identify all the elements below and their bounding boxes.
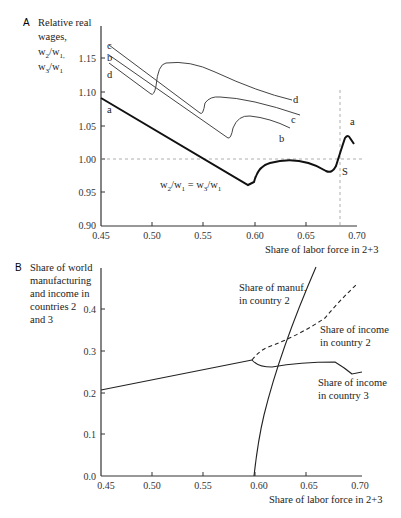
panel-a-ytick-1.15: 1.15 xyxy=(79,53,97,64)
label-d-left: d xyxy=(107,69,113,80)
panel-a-ytick-1.05: 1.05 xyxy=(79,121,97,132)
panel-b-ytick-0.4: 0.4 xyxy=(84,304,97,315)
label-c-right: c xyxy=(291,114,296,125)
curve-income-country-3 xyxy=(252,360,362,374)
panel-b-ylabel-line4: countries 2 xyxy=(30,301,76,312)
panel-a-ylabel-line3: w2/w1, xyxy=(38,46,65,60)
panel-a: A Relative real wages, w2/w1, w3/w1 1.15… xyxy=(23,17,379,255)
equation-label: w2/w1 = w3/w1 xyxy=(160,179,222,193)
annotation-manuf-line1: Share of manuf. xyxy=(239,282,306,293)
label-d-right: d xyxy=(293,94,299,105)
panel-a-ylabel-line1: Relative real xyxy=(38,17,91,28)
panel-a-ytick-0.95: 0.95 xyxy=(79,187,97,198)
panel-b-ytick-0.2: 0.2 xyxy=(84,388,97,399)
panel-b-ylabel-line5: and 3 xyxy=(30,314,53,325)
panel-b-xtick-0.70: 0.70 xyxy=(351,480,369,491)
curve-d xyxy=(109,62,292,100)
panel-b-ytick-0.1: 0.1 xyxy=(84,429,97,440)
curve-b xyxy=(109,55,290,138)
panel-b-letter: B xyxy=(15,262,22,273)
label-a-right: a xyxy=(350,116,355,127)
panel-b-xtick-0.45: 0.45 xyxy=(97,480,115,491)
panel-b-ytick-0.0: 0.0 xyxy=(84,471,97,482)
panel-b-ylabel-line1: Share of world xyxy=(30,262,93,273)
panel-b-xtick-0.60: 0.60 xyxy=(250,480,268,491)
curve-income-common xyxy=(101,360,252,390)
panel-b-xtick-0.65: 0.65 xyxy=(300,480,318,491)
annotation-income2-line2: in country 2 xyxy=(320,337,371,348)
panel-a-ytick-1.10: 1.10 xyxy=(79,87,97,98)
panel-a-letter: A xyxy=(23,17,30,28)
panel-a-xtick-0.50: 0.50 xyxy=(143,230,161,241)
label-c-left: c xyxy=(107,40,112,51)
annotation-income2-line1: Share of income xyxy=(320,324,389,335)
label-S: S xyxy=(342,166,348,177)
figure-canvas: A Relative real wages, w2/w1, w3/w1 1.15… xyxy=(0,0,401,518)
panel-a-xtick-0.65: 0.65 xyxy=(297,230,315,241)
panel-b-ylabel-line3: and income in xyxy=(30,288,90,299)
curve-a xyxy=(101,98,354,185)
annotation-manuf-line2: in country 2 xyxy=(239,295,290,306)
panel-a-xlabel: Share of labor force in 2+3 xyxy=(265,244,379,255)
label-b-right: b xyxy=(279,133,284,144)
curve-c xyxy=(109,45,300,115)
panel-a-ytick-1.00: 1.00 xyxy=(79,154,97,165)
panel-b-ylabel-line2: manufacturing xyxy=(30,275,92,286)
panel-b-xlabel: Share of labor force in 2+3 xyxy=(269,494,383,505)
panel-b-xtick-0.50: 0.50 xyxy=(143,480,161,491)
panel-b-ytick-0.3: 0.3 xyxy=(84,346,97,357)
annotation-income3-line2: in country 3 xyxy=(318,390,369,401)
panel-a-xtick-0.45: 0.45 xyxy=(92,230,110,241)
annotation-income3-line1: Share of income xyxy=(318,377,387,388)
panel-b-xtick-0.55: 0.55 xyxy=(194,480,212,491)
panel-a-ylabel-line4: w3/w1 xyxy=(38,61,64,75)
panel-a-xtick-0.60: 0.60 xyxy=(246,230,264,241)
panel-a-xtick-0.55: 0.55 xyxy=(194,230,212,241)
panel-a-ylabel-line2: wages, xyxy=(38,31,67,42)
label-a-left: a xyxy=(107,104,112,115)
panel-a-xtick-0.70: 0.70 xyxy=(348,230,366,241)
panel-b: B Share of world manufacturing and incom… xyxy=(15,262,389,505)
label-b-left: b xyxy=(107,52,112,63)
